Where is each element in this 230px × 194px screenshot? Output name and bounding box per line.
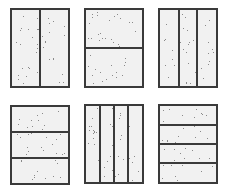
speckle [19, 119, 20, 120]
speckle [190, 83, 191, 84]
speckle [109, 20, 110, 21]
speckle [168, 77, 169, 78]
speckle [110, 124, 111, 125]
speckle [134, 156, 135, 157]
panel-quarters-horizontal [158, 104, 218, 184]
speckle [91, 126, 92, 127]
speckle [201, 171, 202, 172]
speckle [22, 68, 23, 69]
speckle [59, 82, 60, 83]
speckle [28, 151, 29, 152]
speckle [32, 126, 33, 127]
speckle [92, 17, 93, 18]
speckle [203, 78, 204, 79]
speckle [88, 38, 89, 39]
speckle [172, 50, 173, 51]
speckle [21, 161, 22, 162]
panel-quarters-vertical [84, 104, 144, 184]
speckle [207, 138, 208, 139]
speckle [125, 58, 126, 59]
speckle [209, 158, 210, 159]
speckle [97, 108, 98, 109]
speckle [100, 33, 101, 34]
speckle [208, 53, 209, 54]
speckle [97, 12, 98, 13]
speckle [162, 140, 163, 141]
speckle [135, 31, 136, 32]
speckle [164, 149, 165, 150]
speckle [94, 132, 95, 133]
speckle [49, 59, 50, 60]
speckle [88, 143, 89, 144]
speckle [188, 63, 189, 64]
speckle [180, 153, 181, 154]
speckle [120, 139, 121, 140]
speckle [26, 76, 27, 77]
speckle [63, 82, 64, 83]
speckle [91, 38, 92, 39]
speckle [104, 167, 105, 168]
speckle [169, 109, 170, 110]
speckle [111, 39, 112, 40]
speckle [172, 59, 173, 60]
speckle [49, 32, 50, 33]
speckle [208, 64, 209, 65]
panel-thirds-horizontal [10, 105, 70, 185]
speckle [94, 144, 95, 145]
speckle [163, 121, 164, 122]
speckle [104, 176, 105, 177]
speckle [16, 42, 17, 43]
speckle [116, 72, 117, 73]
speckle [163, 165, 164, 166]
speckle [27, 147, 28, 148]
speckle [184, 158, 185, 159]
speckle [193, 40, 194, 41]
speckle [21, 160, 22, 161]
speckle [42, 113, 43, 114]
speckle [53, 21, 54, 22]
speckle [186, 52, 187, 53]
speckle [56, 139, 57, 140]
speckle [32, 179, 33, 180]
speckle [212, 166, 213, 167]
panel-halves-horizontal [84, 8, 144, 88]
speckle [118, 174, 119, 175]
speckle [171, 165, 172, 166]
speckle [183, 49, 184, 50]
speckle [177, 180, 178, 181]
speckle [165, 65, 166, 66]
speckle [209, 61, 210, 62]
speckle [98, 34, 99, 35]
speckle [92, 118, 93, 119]
speckle [53, 176, 54, 177]
speckle [205, 25, 206, 26]
speckle [26, 154, 27, 155]
horizontal-divider [86, 47, 142, 49]
speckle [110, 156, 111, 157]
vertical-divider [113, 106, 115, 182]
speckle [120, 115, 121, 116]
speckle [60, 134, 61, 135]
speckle [162, 178, 163, 179]
vertical-divider [196, 10, 198, 86]
speckle [105, 38, 106, 39]
speckle [100, 72, 101, 73]
speckle [55, 160, 56, 161]
speckle [213, 52, 214, 53]
speckle [18, 124, 19, 125]
speckle [29, 68, 30, 69]
speckle [116, 77, 117, 78]
speckle [92, 14, 93, 15]
speckle [178, 136, 179, 137]
speckle [62, 154, 63, 155]
speckle [196, 109, 197, 110]
speckle [45, 178, 46, 179]
speckle [120, 113, 121, 114]
speckle [132, 162, 133, 163]
speckle [37, 72, 38, 73]
speckle [42, 129, 43, 130]
speckle [18, 75, 19, 76]
speckle [97, 15, 98, 16]
speckle [182, 115, 183, 116]
speckle [37, 48, 38, 49]
